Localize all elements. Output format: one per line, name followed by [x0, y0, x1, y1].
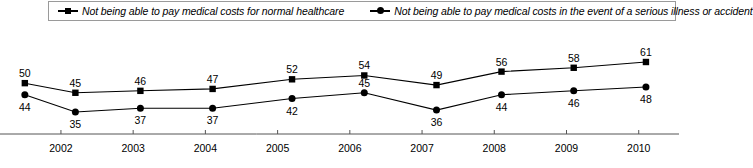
data-point-marker: [571, 65, 577, 71]
data-point-label: 49: [431, 70, 443, 81]
data-point-label: 44: [496, 102, 508, 113]
data-point-marker: [642, 84, 649, 91]
legend-entry-serious-illness: Not being able to pay medical costs in t…: [370, 2, 752, 20]
x-axis-label-2006: 2006: [338, 143, 361, 154]
chart-legend: Not being able to pay medical costs for …: [48, 1, 676, 21]
x-axis-label-2002: 2002: [49, 143, 72, 154]
square-marker-icon: [58, 6, 78, 16]
data-point-label: 46: [135, 76, 147, 87]
data-point-marker: [643, 59, 649, 65]
data-point-marker: [22, 80, 28, 86]
x-axis-label-2004: 2004: [194, 143, 217, 154]
data-point-marker: [361, 89, 368, 96]
data-point-marker: [289, 95, 296, 102]
data-point-label: 36: [431, 117, 443, 128]
data-point-label: 50: [19, 68, 31, 79]
data-point-label: 48: [640, 94, 652, 105]
data-point-marker: [289, 76, 295, 82]
data-point-label: 54: [358, 60, 370, 71]
data-point-label: 56: [496, 57, 508, 68]
x-axis-label-2003: 2003: [121, 143, 144, 154]
x-axis-label-2007: 2007: [410, 143, 433, 154]
data-point-marker: [137, 105, 144, 112]
x-axis-label-2009: 2009: [555, 143, 578, 154]
data-point-label: 37: [135, 115, 147, 126]
data-point-label: 61: [640, 47, 652, 58]
data-point-marker: [21, 91, 28, 98]
circle-marker-icon: [370, 6, 390, 16]
data-point-label: 37: [207, 115, 219, 126]
data-point-marker: [570, 87, 577, 94]
data-point-marker: [498, 91, 505, 98]
data-point-marker: [72, 90, 78, 96]
legend-entry-normal-healthcare: Not being able to pay medical costs for …: [58, 2, 344, 20]
data-point-label: 44: [19, 102, 31, 113]
legend-label-normal-healthcare: Not being able to pay medical costs for …: [82, 6, 344, 17]
data-point-label: 45: [358, 78, 370, 89]
data-point-marker: [433, 82, 439, 88]
chart-plot-area: 2002200320042005200620072008200920105045…: [0, 22, 679, 168]
data-point-label: 52: [286, 64, 298, 75]
data-point-label: 47: [207, 74, 219, 85]
series-line-1: [25, 87, 646, 112]
x-axis-label-2008: 2008: [483, 143, 506, 154]
data-point-label: 35: [70, 119, 82, 130]
data-point-label: 46: [568, 98, 580, 109]
data-point-label: 42: [286, 106, 298, 117]
data-point-label: 58: [568, 53, 580, 64]
series-line-0: [25, 62, 646, 93]
data-point-marker: [209, 105, 216, 112]
data-point-marker: [209, 86, 215, 92]
data-point-label: 45: [70, 78, 82, 89]
data-point-marker: [72, 109, 79, 116]
data-point-marker: [433, 107, 440, 114]
data-point-marker: [498, 68, 504, 74]
x-axis-label-2005: 2005: [266, 143, 289, 154]
x-axis-label-2010: 2010: [627, 143, 650, 154]
legend-label-serious-illness: Not being able to pay medical costs in t…: [394, 6, 752, 17]
data-point-marker: [137, 88, 143, 94]
